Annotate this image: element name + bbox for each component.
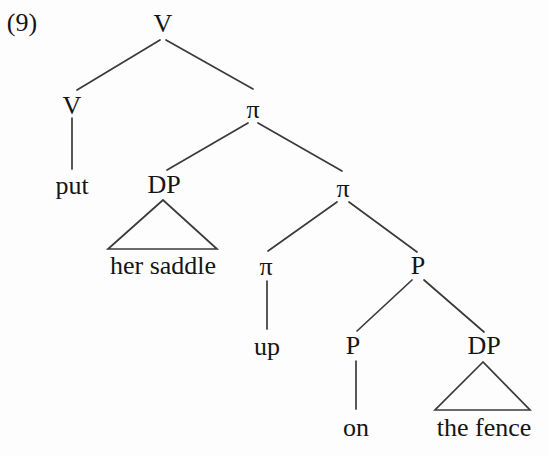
triangle-dp2-the-fence [435,362,530,410]
terminal-up: up [254,334,280,360]
node-pi-3: π [259,254,272,280]
edge-pi1-pi2 [258,123,342,171]
node-p-2: P [346,333,360,359]
terminal-put: put [55,173,88,199]
edge-p1-dp2 [424,280,484,332]
edge-pi2-p1 [349,202,417,252]
node-p-1: P [411,253,425,279]
example-number: (9) [7,10,37,36]
node-pi-1: π [246,97,259,123]
triangle-dp1-her-saddle [108,200,217,249]
edge-p1-p2 [357,280,412,331]
terminal-on: on [343,415,369,441]
syntax-tree-figure: (9) V V π put DP π her saddle π P up P D… [0,0,549,456]
node-dp-2: DP [467,333,500,359]
node-pi-2: π [336,176,349,202]
edge-pi1-dp1 [167,123,248,170]
edge-pi2-pi3 [268,202,337,251]
edge-vroot-vhead [77,40,160,90]
tree-edges-layer [0,0,549,456]
terminal-the-fence: the fence [437,415,532,441]
terminal-her-saddle: her saddle [110,253,216,279]
node-dp-1: DP [147,172,180,198]
edge-vroot-pi1 [166,40,253,89]
node-v-root: V [154,11,173,37]
node-v-head: V [63,93,82,119]
